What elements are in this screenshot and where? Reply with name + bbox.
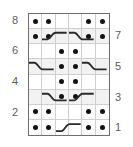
row-label-right-1: 1 [115,122,129,133]
purl-dot-icon [73,64,78,69]
chart-cell[interactable] [42,44,55,59]
chart-cell[interactable] [82,90,95,105]
chart-cell[interactable] [56,44,69,59]
chart-grid [28,13,110,136]
purl-dot-icon [46,125,51,130]
chart-cell[interactable] [96,120,109,135]
chart-cell[interactable] [29,44,42,59]
purl-dot-icon [59,79,64,84]
chart-cell[interactable] [82,105,95,120]
chart-cell[interactable] [29,90,42,105]
chart-cell[interactable] [69,120,82,135]
chart-cell[interactable] [82,44,95,59]
chart-row [29,29,109,44]
purl-dot-icon [59,49,64,54]
chart-row [29,105,109,120]
chart-cell[interactable] [96,14,109,29]
row-label-left-6: 6 [4,45,18,56]
chart-cell[interactable] [42,14,55,29]
purl-dot-icon [59,94,64,99]
purl-dot-icon [73,49,78,54]
purl-dot-icon [46,34,51,39]
purl-dot-icon [100,109,105,114]
chart-cell[interactable] [69,59,82,74]
knitting-chart: 87654321 [0,0,133,147]
row-label-right-7: 7 [115,30,129,41]
chart-cell[interactable] [42,120,55,135]
chart-cell[interactable] [42,90,55,105]
purl-dot-icon [33,109,38,114]
purl-dot-icon [86,34,91,39]
chart-cell[interactable] [82,29,95,44]
chart-cell[interactable] [29,120,42,135]
chart-cell[interactable] [42,75,55,90]
chart-cell[interactable] [42,29,55,44]
chart-cell[interactable] [82,59,95,74]
row-label-right-3: 3 [115,92,129,103]
purl-dot-icon [33,125,38,130]
purl-dot-icon [59,64,64,69]
purl-dot-icon [73,79,78,84]
chart-row [29,59,109,74]
chart-cell[interactable] [69,14,82,29]
row-label-left-4: 4 [4,76,18,87]
chart-cell[interactable] [96,105,109,120]
purl-dot-icon [46,109,51,114]
chart-cell[interactable] [82,120,95,135]
chart-cell[interactable] [96,59,109,74]
chart-cell[interactable] [56,29,69,44]
purl-dot-icon [86,125,91,130]
chart-cell[interactable] [56,105,69,120]
chart-cell[interactable] [69,29,82,44]
purl-dot-icon [33,19,38,24]
chart-row [29,90,109,105]
chart-cell[interactable] [29,105,42,120]
chart-cell[interactable] [69,44,82,59]
chart-cell[interactable] [29,29,42,44]
purl-dot-icon [73,94,78,99]
row-label-right-5: 5 [115,61,129,72]
chart-cell[interactable] [56,14,69,29]
purl-dot-icon [33,34,38,39]
purl-dot-icon [86,109,91,114]
chart-cell[interactable] [56,90,69,105]
chart-cell[interactable] [29,75,42,90]
chart-cell[interactable] [56,59,69,74]
chart-cell[interactable] [29,14,42,29]
purl-dot-icon [100,34,105,39]
purl-dot-icon [100,19,105,24]
chart-cell[interactable] [56,120,69,135]
purl-dot-icon [86,19,91,24]
chart-cell[interactable] [96,90,109,105]
chart-cell[interactable] [82,75,95,90]
chart-cell[interactable] [42,105,55,120]
chart-row [29,14,109,29]
chart-row [29,44,109,59]
row-label-left-2: 2 [4,107,18,118]
purl-dot-icon [100,125,105,130]
chart-cell[interactable] [69,75,82,90]
chart-cell[interactable] [96,29,109,44]
row-label-left-8: 8 [4,15,18,26]
chart-cell[interactable] [56,75,69,90]
chart-cell[interactable] [69,90,82,105]
chart-cell[interactable] [96,75,109,90]
chart-cell[interactable] [42,59,55,74]
chart-row [29,75,109,90]
chart-row [29,120,109,135]
chart-cell[interactable] [69,105,82,120]
chart-cell[interactable] [82,14,95,29]
chart-cell[interactable] [29,59,42,74]
chart-cell[interactable] [96,44,109,59]
purl-dot-icon [46,19,51,24]
